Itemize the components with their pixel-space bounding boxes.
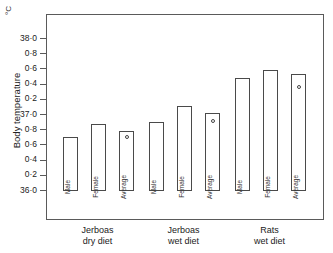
figure-body-temperature: °C Body temperature 36·00·20·40·60·837·0…: [0, 0, 333, 253]
bar-label: Female: [178, 176, 185, 198]
group-label-line1: Rats: [260, 225, 279, 235]
average-marker-icon: [297, 85, 301, 89]
y-axis-tick-label: 0·2: [0, 93, 37, 103]
bar: Female: [91, 124, 106, 191]
bar: Male: [63, 137, 78, 191]
bar: Female: [177, 106, 192, 191]
bar-label: Average: [206, 175, 213, 199]
bar: Male: [235, 78, 250, 191]
y-axis-tick-label: 0·4: [0, 154, 37, 164]
y-axis-tick-label: 0·8: [0, 124, 37, 134]
average-marker-icon: [125, 135, 129, 139]
y-axis-tick-label: 37·0: [0, 109, 37, 119]
bar: Average: [119, 131, 134, 191]
bar: Male: [149, 122, 164, 191]
bar-label: Male: [236, 180, 243, 194]
average-marker-icon: [211, 119, 215, 123]
bar: Female: [263, 70, 278, 191]
group-label-line1: Jerboas: [81, 225, 113, 235]
plot-area: MaleFemaleAverageMaleFemaleAverageMaleFe…: [46, 14, 324, 220]
x-axis-group-label: Ratswet diet: [215, 225, 325, 246]
y-axis-tick-label: 0·8: [0, 48, 37, 58]
y-axis-tick-label: 0·4: [0, 78, 37, 88]
bar-label: Male: [64, 180, 71, 194]
bar-label: Average: [292, 175, 299, 199]
y-axis-tick-label: 0·6: [0, 139, 37, 149]
bar: Average: [205, 113, 220, 191]
y-axis-tick-label: 0·6: [0, 63, 37, 73]
group-label-line1: Jerboas: [167, 225, 199, 235]
unit-label: °C: [4, 6, 13, 15]
y-axis-tick-label: 0·2: [0, 169, 37, 179]
y-axis-tick-label: 36·0: [0, 185, 37, 195]
bar-label: Average: [120, 175, 127, 199]
group-label-line2: wet diet: [215, 236, 325, 247]
y-axis-tick-label: 38·0: [0, 33, 37, 43]
bar-label: Female: [264, 176, 271, 198]
bar-label: Female: [92, 176, 99, 198]
bar: Average: [291, 74, 306, 191]
bar-label: Male: [150, 180, 157, 194]
